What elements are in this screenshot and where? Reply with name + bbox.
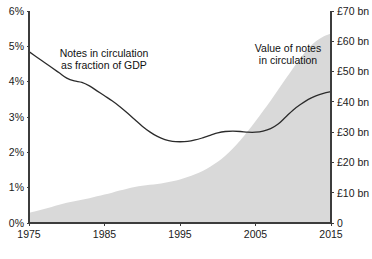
x-axis-tick-label: 2005 [244, 228, 268, 240]
notes-in-circulation-chart: 0%1%2%3%4%5%6% 0£10 bn£20 bn£30 bn£40 bn… [0, 0, 372, 259]
left-axis-ticks: 0%1%2%3%4%5%6% [9, 5, 29, 229]
left-axis-tick-label: 2% [9, 146, 24, 158]
chart-annotations: Notes in circulationas fraction of GDPVa… [60, 42, 322, 71]
right-axis-tick-label: £60 bn [337, 35, 369, 47]
right-axis-tick-label: £10 bn [337, 187, 369, 199]
annotation-line: Notes in circulation [60, 47, 149, 59]
right-axis-tick-label: £30 bn [337, 126, 369, 138]
annotation-gdp-share: Notes in circulationas fraction of GDP [60, 47, 149, 71]
right-axis-tick-label: £20 bn [337, 156, 369, 168]
right-axis-tick-label: £40 bn [337, 96, 369, 108]
left-axis-tick-label: 6% [9, 5, 24, 17]
left-axis-tick-label: 1% [9, 181, 24, 193]
right-axis: 0£10 bn£20 bn£30 bn£40 bn£50 bn£60 bn£70… [331, 5, 369, 229]
x-axis-tick-label: 1975 [17, 228, 41, 240]
left-axis: 0%1%2%3%4%5%6% [9, 5, 29, 229]
left-axis-tick-label: 0% [9, 217, 24, 229]
right-axis-tick-label: £50 bn [337, 65, 369, 77]
annotation-line: in circulation [259, 54, 318, 66]
bottom-axis: 19751985199520052015 [17, 223, 343, 240]
left-axis-tick-label: 3% [9, 111, 24, 123]
x-axis-tick-label: 1995 [168, 228, 192, 240]
x-axis-tick-label: 1985 [93, 228, 117, 240]
annotation-note-value: Value of notesin circulation [255, 42, 321, 66]
right-axis-tick-label: 0 [337, 217, 343, 229]
annotation-line: as fraction of GDP [61, 59, 147, 71]
bottom-axis-ticks: 19751985199520052015 [17, 223, 343, 240]
annotation-line: Value of notes [255, 42, 321, 54]
right-axis-tick-label: £70 bn [337, 5, 369, 17]
right-axis-ticks: 0£10 bn£20 bn£30 bn£40 bn£50 bn£60 bn£70… [331, 5, 369, 229]
left-axis-tick-label: 4% [9, 75, 24, 87]
left-axis-tick-label: 5% [9, 40, 24, 52]
x-axis-tick-label: 2015 [319, 228, 343, 240]
chart-container: 0%1%2%3%4%5%6% 0£10 bn£20 bn£30 bn£40 bn… [0, 0, 372, 259]
